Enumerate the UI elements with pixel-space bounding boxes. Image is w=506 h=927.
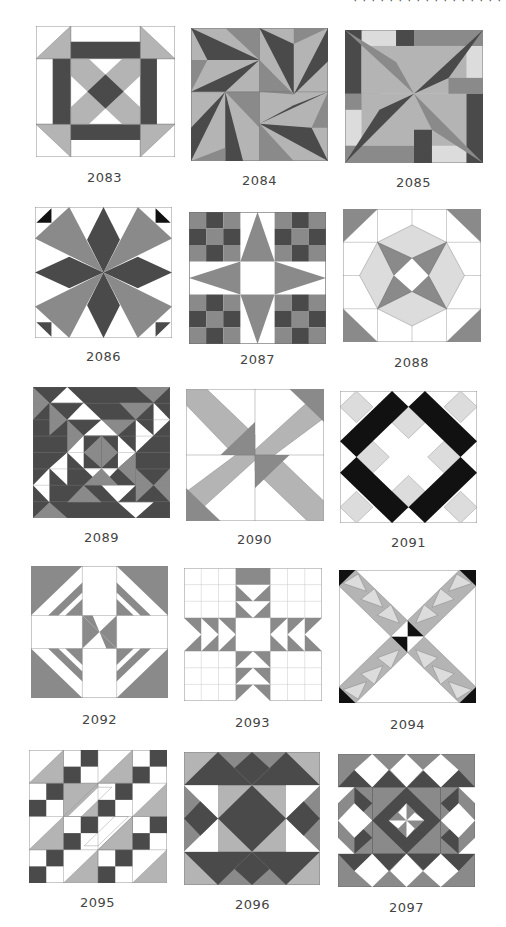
block-number-label: 2090 — [186, 532, 323, 547]
block-number-label: 2096 — [184, 897, 321, 912]
quilt-block-2089[interactable] — [33, 387, 170, 518]
quilt-block-2084-pattern — [191, 28, 328, 161]
quilt-block-2097-pattern — [338, 754, 475, 887]
quilt-block-2090-pattern — [186, 389, 324, 521]
quilt-block-2091-pattern — [340, 391, 477, 523]
quilt-block-2088[interactable] — [343, 209, 481, 342]
quilt-block-2089-pattern — [33, 387, 170, 518]
block-number-label: 2095 — [29, 895, 166, 910]
quilt-block-2094-pattern — [339, 570, 476, 703]
quilt-block-2092[interactable] — [31, 566, 168, 698]
quilt-block-2096-pattern — [184, 752, 320, 885]
quilt-block-2086[interactable] — [35, 207, 172, 338]
quilt-block-2088-pattern — [343, 209, 481, 342]
block-number-label: 2083 — [36, 170, 173, 185]
block-number-label: 2088 — [343, 355, 480, 370]
quilt-block-2086-pattern — [35, 207, 172, 338]
quilt-block-2091[interactable] — [340, 391, 477, 523]
quilt-block-2090[interactable] — [186, 389, 324, 521]
quilt-block-2092-pattern — [31, 566, 168, 698]
block-number-label: 2086 — [35, 349, 172, 364]
quilt-block-2093[interactable] — [184, 568, 322, 701]
block-number-label: 2093 — [184, 715, 321, 730]
quilt-block-2084[interactable] — [191, 28, 328, 161]
block-number-label: 2091 — [340, 535, 477, 550]
quilt-block-2087-pattern — [189, 212, 326, 344]
block-number-label: 2094 — [339, 717, 476, 732]
quilt-block-2083-pattern — [36, 26, 175, 157]
quilt-block-2093-pattern — [184, 568, 322, 701]
quilt-block-2083[interactable] — [36, 26, 175, 157]
block-number-label: 2092 — [31, 712, 168, 727]
quilt-block-2095[interactable] — [29, 750, 167, 883]
quilt-block-2094[interactable] — [339, 570, 476, 703]
quilt-block-2087[interactable] — [189, 212, 326, 344]
quilt-block-2085-pattern — [345, 30, 483, 163]
quilt-block-2095-pattern — [29, 750, 167, 883]
block-number-label: 2085 — [345, 175, 482, 190]
quilt-block-2096[interactable] — [184, 752, 320, 885]
quilt-block-2097[interactable] — [338, 754, 475, 887]
block-number-label: 2087 — [189, 352, 326, 367]
quilt-block-2085[interactable] — [345, 30, 483, 163]
block-number-label: 2084 — [191, 173, 328, 188]
block-number-label: 2089 — [33, 530, 170, 545]
block-number-label: 2097 — [338, 900, 475, 915]
header-fragment: · · · · · · · · · · · · · · · · · — [354, 0, 502, 6]
